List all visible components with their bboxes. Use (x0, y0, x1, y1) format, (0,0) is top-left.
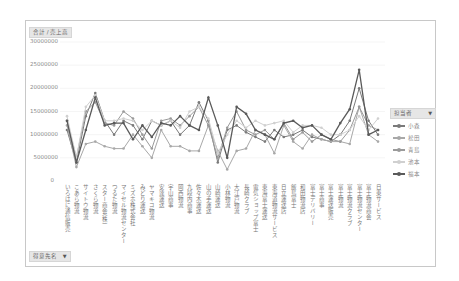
data-point[interactable] (66, 119, 69, 122)
data-point[interactable] (282, 136, 285, 139)
data-point[interactable] (311, 124, 314, 127)
data-point[interactable] (207, 117, 210, 120)
data-point[interactable] (358, 69, 361, 72)
data-point[interactable] (235, 119, 238, 122)
data-point[interactable] (292, 119, 295, 122)
data-point[interactable] (282, 119, 285, 122)
data-point[interactable] (339, 122, 342, 125)
data-point[interactable] (216, 157, 219, 160)
data-point[interactable] (245, 131, 248, 134)
data-point[interactable] (113, 124, 116, 127)
data-point[interactable] (132, 124, 135, 127)
data-point[interactable] (292, 133, 295, 136)
data-point[interactable] (226, 168, 229, 171)
data-point[interactable] (122, 119, 125, 122)
data-point[interactable] (330, 133, 333, 136)
data-point[interactable] (320, 126, 323, 129)
data-point[interactable] (85, 106, 88, 109)
data-point[interactable] (122, 117, 125, 120)
data-point[interactable] (85, 143, 88, 146)
data-point[interactable] (113, 119, 116, 122)
data-point[interactable] (339, 133, 342, 136)
data-point[interactable] (207, 96, 210, 99)
data-point[interactable] (179, 115, 182, 118)
data-point[interactable] (245, 126, 248, 129)
series-line[interactable] (66, 101, 380, 159)
data-point[interactable] (330, 140, 333, 143)
data-point[interactable] (301, 126, 304, 129)
legend-item[interactable]: 松田 (393, 134, 420, 142)
data-point[interactable] (254, 136, 257, 139)
data-point[interactable] (358, 106, 361, 109)
data-point[interactable] (160, 122, 163, 125)
data-point[interactable] (188, 115, 191, 118)
data-point[interactable] (179, 126, 182, 129)
axis-field-button[interactable]: 得意先名 ▼ (29, 251, 71, 262)
data-point[interactable] (273, 129, 276, 132)
data-point[interactable] (113, 147, 116, 150)
data-point[interactable] (188, 124, 191, 127)
data-point[interactable] (311, 133, 314, 136)
data-point[interactable] (264, 124, 267, 127)
data-point[interactable] (320, 138, 323, 141)
series-line[interactable] (66, 69, 380, 164)
data-point[interactable] (122, 122, 125, 125)
data-point[interactable] (132, 133, 135, 136)
data-point[interactable] (226, 133, 229, 136)
data-point[interactable] (198, 106, 201, 109)
data-point[interactable] (245, 129, 248, 132)
data-point[interactable] (292, 140, 295, 143)
data-point[interactable] (198, 101, 201, 104)
data-point[interactable] (198, 129, 201, 132)
legend-item[interactable]: 池本 (393, 158, 420, 166)
data-point[interactable] (301, 131, 304, 134)
data-point[interactable] (320, 133, 323, 136)
data-point[interactable] (151, 147, 154, 150)
data-point[interactable] (216, 152, 219, 155)
data-point[interactable] (377, 129, 380, 132)
data-point[interactable] (132, 119, 135, 122)
data-point[interactable] (273, 152, 276, 155)
data-point[interactable] (169, 117, 172, 120)
data-point[interactable] (292, 138, 295, 141)
data-point[interactable] (132, 117, 135, 120)
data-point[interactable] (348, 108, 351, 111)
data-point[interactable] (216, 124, 219, 127)
data-point[interactable] (264, 133, 267, 136)
data-point[interactable] (292, 131, 295, 134)
data-point[interactable] (188, 110, 191, 113)
data-point[interactable] (377, 133, 380, 136)
data-point[interactable] (66, 115, 69, 118)
data-point[interactable] (264, 129, 267, 132)
data-point[interactable] (254, 133, 257, 136)
data-point[interactable] (179, 133, 182, 136)
data-point[interactable] (151, 157, 154, 160)
data-point[interactable] (235, 150, 238, 153)
data-point[interactable] (358, 87, 361, 90)
data-point[interactable] (141, 138, 144, 141)
data-point[interactable] (169, 124, 172, 127)
data-point[interactable] (226, 157, 229, 160)
data-point[interactable] (226, 126, 229, 129)
data-point[interactable] (348, 129, 351, 132)
data-point[interactable] (94, 92, 97, 95)
legend-field-button[interactable]: 担当者 ▼ (390, 108, 436, 119)
data-point[interactable] (377, 140, 380, 143)
data-point[interactable] (141, 124, 144, 127)
data-point[interactable] (103, 124, 106, 127)
data-point[interactable] (103, 145, 106, 148)
data-point[interactable] (169, 145, 172, 148)
data-point[interactable] (245, 113, 248, 116)
data-point[interactable] (254, 129, 257, 132)
series-line[interactable] (66, 94, 380, 159)
data-point[interactable] (330, 138, 333, 141)
data-point[interactable] (367, 119, 370, 122)
data-point[interactable] (188, 150, 191, 153)
data-point[interactable] (235, 124, 238, 127)
data-point[interactable] (141, 133, 144, 136)
data-point[interactable] (235, 106, 238, 109)
data-point[interactable] (282, 122, 285, 125)
data-point[interactable] (264, 140, 267, 143)
data-point[interactable] (160, 119, 163, 122)
data-point[interactable] (254, 119, 257, 122)
